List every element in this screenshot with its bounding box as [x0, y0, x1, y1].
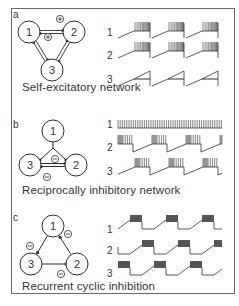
burst-block: [202, 215, 214, 222]
neuron-1-label: 1: [50, 125, 56, 137]
synapse-dot: [36, 251, 39, 254]
panel-c-label: c: [13, 212, 18, 223]
panel-a-label: a: [13, 9, 19, 20]
burst-block: [142, 240, 154, 247]
trace-label-c3: 3: [107, 268, 113, 279]
neuron-2-label: 2: [71, 26, 77, 38]
trace-label-a2: 2: [107, 50, 113, 61]
trace-label-c2: 2: [107, 245, 113, 256]
trace-a1: [118, 31, 134, 38]
trace-a1: [186, 31, 202, 38]
trace-c1: [118, 220, 130, 229]
trace-label-b3: 3: [107, 166, 113, 177]
trace-c3: [142, 266, 154, 275]
synapse-dot: [58, 236, 61, 239]
trace-c3: [178, 266, 190, 275]
panel-c-caption: Recurrent cyclic inhibition: [22, 280, 155, 292]
neuron-2-label: 2: [73, 159, 79, 171]
trace-label-c1: 1: [107, 224, 113, 235]
trace-c1: [190, 220, 202, 229]
neuron-1-label: 1: [26, 26, 32, 38]
excitatory-connection: [36, 41, 48, 60]
trace-a3: [152, 79, 168, 86]
trace-a2: [118, 51, 134, 58]
burst-block: [190, 261, 202, 268]
trace-c2: [202, 245, 214, 254]
trace-c1: [154, 220, 166, 229]
neuron-2-label: 2: [74, 258, 80, 270]
burst-block: [154, 261, 166, 268]
trace-c3: [214, 269, 222, 275]
trace-label-b2: 2: [107, 142, 113, 153]
trace-a1: [152, 31, 168, 38]
burst-block: [166, 215, 178, 222]
trace-a2: [186, 51, 202, 58]
panel-b-label: b: [13, 119, 19, 130]
excitatory-connection: [33, 42, 45, 61]
burst-block: [178, 240, 190, 247]
panel-a-caption: Self-excitatory network: [22, 81, 141, 93]
burst-block: [130, 215, 142, 222]
neuron-3-label: 3: [27, 159, 33, 171]
figure-canvas: 123123123: [0, 0, 239, 306]
panel-b-caption: Reciprocally inhibitory network: [22, 184, 180, 196]
inhibitory-connection: [40, 148, 53, 160]
neuron-3-label: 3: [28, 258, 34, 270]
trace-a3: [186, 79, 202, 86]
trace-label-a1: 1: [107, 27, 113, 38]
trace-label-a3: 3: [107, 74, 113, 85]
trace-a2: [152, 51, 168, 58]
trace-c2: [130, 245, 142, 254]
trace-label-b1: 1: [107, 119, 113, 130]
burst-block: [118, 261, 130, 268]
neuron-3-label: 3: [49, 64, 55, 76]
trace-c2: [166, 245, 178, 254]
burst-block: [214, 240, 222, 247]
neuron-1-label: 1: [50, 220, 56, 232]
